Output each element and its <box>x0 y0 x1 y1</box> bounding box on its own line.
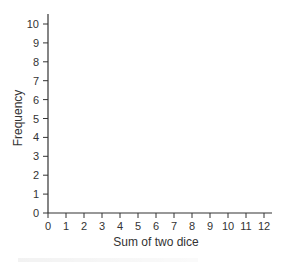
y-axis-title: Frequency <box>11 90 25 147</box>
chart: 012345678910 0123456789101112 Sum of two… <box>0 0 285 267</box>
y-tick-label: 7 <box>33 75 39 87</box>
x-tick-label: 6 <box>153 220 159 232</box>
y-axis: 012345678910 <box>27 14 48 219</box>
x-tick-label: 7 <box>171 220 177 232</box>
x-tick-label: 0 <box>45 220 51 232</box>
y-tick-label: 4 <box>33 131 39 143</box>
y-tick-label: 10 <box>27 18 39 30</box>
x-axis-title: Sum of two dice <box>113 235 199 249</box>
x-tick-label: 2 <box>81 220 87 232</box>
x-tick-label: 8 <box>189 220 195 232</box>
y-tick-label: 0 <box>33 207 39 219</box>
y-tick-label: 5 <box>33 113 39 125</box>
x-tick-label: 4 <box>117 220 123 232</box>
y-tick-label: 3 <box>33 150 39 162</box>
x-tick-label: 5 <box>135 220 141 232</box>
y-tick-label: 1 <box>33 188 39 200</box>
x-tick-label: 12 <box>258 220 270 232</box>
x-tick-label: 10 <box>222 220 234 232</box>
x-tick-label: 11 <box>240 220 251 232</box>
y-tick-label: 8 <box>33 56 39 68</box>
x-tick-label: 9 <box>207 220 213 232</box>
y-tick-label: 2 <box>33 169 39 181</box>
x-tick-label: 3 <box>99 220 105 232</box>
x-axis: 0123456789101112 <box>45 213 272 232</box>
y-tick-label: 6 <box>33 94 39 106</box>
x-tick-label: 1 <box>63 220 69 232</box>
y-tick-label: 9 <box>33 37 39 49</box>
faint-caption-bleed <box>18 258 198 262</box>
